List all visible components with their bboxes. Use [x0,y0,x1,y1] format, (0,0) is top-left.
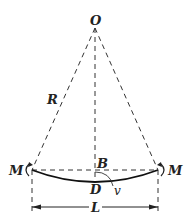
label-B: B [97,157,108,170]
label-length-L: L [89,201,102,214]
label-moment-right: M [168,164,182,177]
moment-arrowhead-left-icon [28,162,33,167]
label-moment-left: M [9,164,23,177]
radius-line-right [95,28,158,170]
label-center-O: O [90,14,101,27]
arrow-left-icon [32,205,41,210]
beam-bending-diagram: O R B D v M M L [0,0,194,224]
arrow-right-icon [149,205,158,210]
label-deflection-v: v [114,185,121,197]
label-D: D [90,183,101,196]
radius-line-left [32,28,95,170]
label-radius-R: R [47,93,58,106]
moment-arrowhead-right-icon [157,162,162,167]
